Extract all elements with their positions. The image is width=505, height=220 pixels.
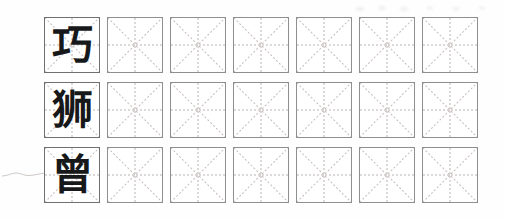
cell-guide-lines [171, 83, 225, 137]
model-character-glyph: 曾 [45, 148, 99, 202]
cell-guide-lines [234, 18, 288, 72]
cell-guide-lines [423, 148, 477, 202]
practice-cell[interactable] [296, 147, 352, 203]
cell-guide-lines [423, 83, 477, 137]
character-practice-worksheet: 巧 [0, 0, 505, 220]
practice-cell[interactable] [422, 82, 478, 138]
practice-cell[interactable] [296, 82, 352, 138]
model-character-glyph: 狮 [45, 83, 99, 137]
stray-pencil-mark-artifact [2, 168, 46, 180]
practice-cell[interactable] [359, 82, 415, 138]
cell-guide-lines [297, 148, 351, 202]
practice-cell[interactable] [170, 82, 226, 138]
practice-cell[interactable] [233, 17, 289, 73]
practice-cell[interactable] [359, 147, 415, 203]
practice-cell[interactable] [107, 17, 163, 73]
practice-row: 曾 [44, 147, 478, 203]
practice-cell[interactable] [170, 17, 226, 73]
practice-cell[interactable] [107, 82, 163, 138]
model-character-cell: 曾 [44, 147, 100, 203]
practice-cell[interactable] [422, 147, 478, 203]
model-character-cell: 巧 [44, 17, 100, 73]
cell-guide-lines [423, 18, 477, 72]
practice-row: 巧 [44, 17, 478, 73]
practice-cell[interactable] [170, 147, 226, 203]
cell-guide-lines [108, 83, 162, 137]
cell-guide-lines [234, 148, 288, 202]
cell-guide-lines [171, 18, 225, 72]
cell-guide-lines [360, 148, 414, 202]
practice-cell[interactable] [359, 17, 415, 73]
practice-grid: 巧 [44, 17, 478, 203]
cell-guide-lines [297, 18, 351, 72]
cell-guide-lines [108, 148, 162, 202]
cell-guide-lines [360, 83, 414, 137]
practice-row: 狮 [44, 82, 478, 138]
cell-guide-lines [171, 148, 225, 202]
practice-cell[interactable] [233, 147, 289, 203]
model-character-glyph: 巧 [45, 18, 99, 72]
cell-guide-lines [234, 83, 288, 137]
practice-cell[interactable] [422, 17, 478, 73]
practice-cell[interactable] [233, 82, 289, 138]
cell-guide-lines [297, 83, 351, 137]
model-character-cell: 狮 [44, 82, 100, 138]
cell-guide-lines [108, 18, 162, 72]
cell-guide-lines [360, 18, 414, 72]
practice-cell[interactable] [296, 17, 352, 73]
practice-cell[interactable] [107, 147, 163, 203]
